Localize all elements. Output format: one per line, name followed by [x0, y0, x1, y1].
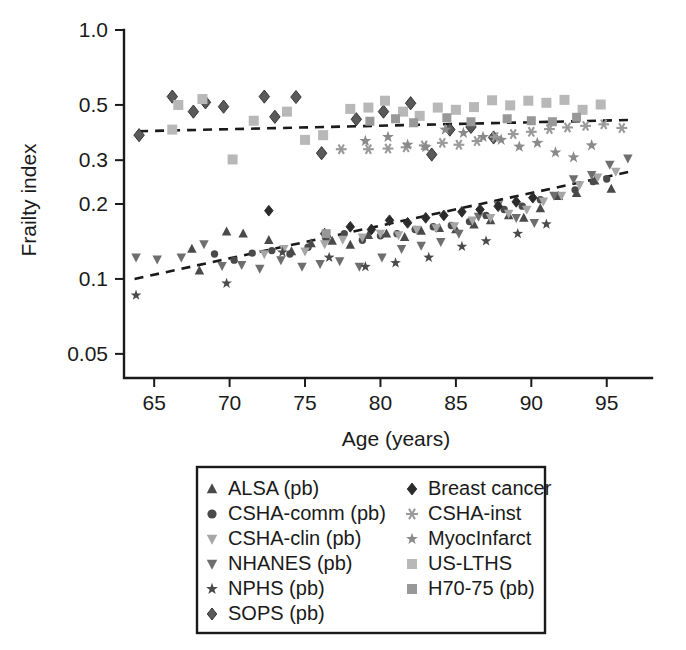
- marker-square: [466, 117, 475, 126]
- marker-square: [318, 130, 328, 140]
- marker-triangle-up: [264, 235, 273, 244]
- x-axis-tick-label: 65: [142, 391, 165, 414]
- marker-star: [568, 151, 580, 162]
- legend-item[interactable]: CSHA-clin (pb): [207, 527, 362, 549]
- marker-star: [390, 257, 401, 267]
- series-nhanes-pb: [131, 155, 632, 274]
- marker-square: [527, 116, 536, 125]
- marker-triangle-up: [222, 226, 231, 235]
- marker-triangle-down: [297, 263, 306, 272]
- marker-triangle-down: [276, 256, 285, 265]
- marker-star: [531, 137, 543, 148]
- legend-item[interactable]: Breast cancer: [407, 477, 551, 499]
- marker-square: [451, 105, 461, 115]
- legend-item-label: US-LTHS: [428, 552, 512, 574]
- marker-diamond: [259, 90, 269, 103]
- y-axis-tick-label: 0.1: [79, 267, 108, 290]
- marker-diamond: [351, 113, 361, 126]
- marker-circle: [211, 250, 218, 257]
- legend-item-label: CSHA-clin (pb): [228, 527, 361, 549]
- marker-star: [457, 241, 468, 251]
- marker-triangle-down: [530, 219, 539, 228]
- legend-item-label: H70-75 (pb): [428, 577, 535, 599]
- x-axis-tick-label: 90: [520, 391, 543, 414]
- marker-diamond: [270, 110, 280, 123]
- marker-triangle-down: [300, 248, 309, 257]
- marker-triangle-down: [623, 155, 632, 164]
- marker-square: [572, 113, 581, 122]
- marker-asterisk: [437, 138, 448, 147]
- legend-item-label: NPHS (pb): [228, 577, 325, 599]
- marker-diamond: [421, 212, 430, 223]
- marker-square: [487, 95, 497, 105]
- frailty-index-scatter-chart: 1.00.50.30.20.10.0565707580859095 Frailt…: [0, 0, 686, 650]
- marker-star: [550, 146, 562, 157]
- legend-item-label: CSHA-comm (pb): [228, 502, 386, 524]
- marker-triangle-down: [255, 265, 264, 274]
- marker-triangle-up: [187, 244, 196, 253]
- legend-item[interactable]: CSHA-comm (pb): [207, 502, 385, 524]
- marker-triangle-down: [217, 262, 226, 271]
- chart-legend: ALSA (pb)CSHA-comm (pb)CSHA-clin (pb)NHA…: [197, 467, 552, 633]
- legend-item[interactable]: NHANES (pb): [207, 552, 353, 574]
- marker-triangle-down: [152, 255, 161, 264]
- legend-item-label: NHANES (pb): [228, 552, 352, 574]
- x-axis-title: Age (years): [342, 427, 451, 450]
- marker-square: [249, 116, 259, 126]
- series-csha-comm-pb: [211, 175, 611, 263]
- marker-square: [407, 584, 417, 594]
- x-axis-tick-label: 80: [369, 391, 392, 414]
- marker-diamond: [316, 147, 326, 160]
- marker-square: [433, 103, 443, 113]
- lower-trend: [135, 171, 634, 279]
- marker-triangle-down: [397, 245, 406, 254]
- marker-square: [442, 113, 451, 122]
- axis-ticks-group: [115, 30, 607, 387]
- marker-triangle-up: [346, 240, 355, 249]
- x-axis-tick-label: 95: [595, 391, 618, 414]
- marker-diamond: [378, 105, 388, 118]
- marker-square: [322, 229, 331, 238]
- marker-triangle-up: [607, 184, 616, 193]
- series-us-lths: [167, 94, 605, 164]
- marker-diamond: [440, 210, 449, 221]
- marker-triangle-down: [416, 242, 425, 251]
- marker-triangle-down: [454, 230, 463, 239]
- marker-square: [469, 102, 479, 112]
- marker-star: [513, 140, 525, 151]
- marker-star: [541, 219, 552, 229]
- marker-star: [481, 235, 492, 245]
- marker-circle: [249, 249, 256, 256]
- marker-square: [363, 103, 373, 113]
- marker-triangle-down: [131, 254, 140, 263]
- x-axis-tick-label: 70: [218, 391, 241, 414]
- marker-diamond: [403, 217, 412, 228]
- marker-triangle-down: [260, 250, 269, 259]
- marker-square: [197, 94, 207, 104]
- marker-square: [228, 154, 238, 164]
- legend-item-label: ALSA (pb): [228, 477, 319, 499]
- x-axis-tick-label: 85: [444, 391, 467, 414]
- y-axis-title: Frailty index: [17, 143, 40, 257]
- legend-item-label: MyocInfarct: [428, 527, 532, 549]
- y-axis-tick-label: 0.2: [79, 192, 108, 215]
- marker-star: [131, 290, 142, 300]
- x-axis-tick-label: 75: [293, 391, 316, 414]
- marker-asterisk: [580, 121, 591, 130]
- marker-star: [423, 252, 434, 262]
- marker-asterisk: [383, 144, 394, 153]
- marker-circle: [286, 250, 293, 257]
- marker-asterisk: [336, 145, 347, 154]
- marker-star: [359, 135, 371, 146]
- marker-triangle-down: [315, 260, 324, 269]
- marker-square: [560, 95, 570, 105]
- marker-asterisk: [616, 123, 627, 132]
- marker-square: [282, 107, 292, 117]
- marker-diamond: [291, 90, 301, 103]
- marker-diamond: [188, 105, 198, 118]
- marker-star: [586, 139, 598, 150]
- marker-circle: [207, 509, 216, 518]
- marker-circle: [603, 175, 610, 182]
- marker-square: [523, 96, 533, 106]
- marker-asterisk: [526, 127, 537, 136]
